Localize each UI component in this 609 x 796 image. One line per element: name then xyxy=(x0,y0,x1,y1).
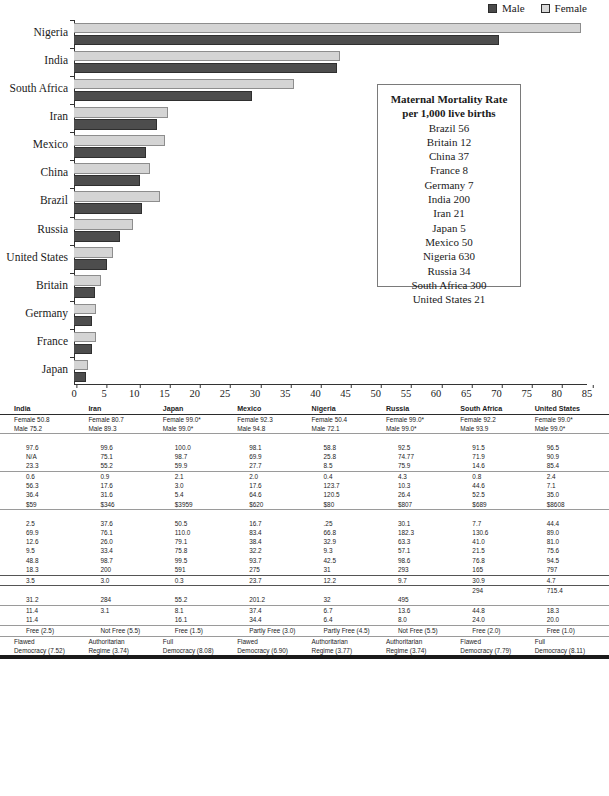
x-tick-mark xyxy=(381,385,382,388)
table-cell-iran: Not Free (5.5) xyxy=(88,626,162,636)
table-cell-russia: 8.0 xyxy=(386,615,460,624)
section-rule xyxy=(0,655,609,657)
table-cell-united-states: 7.1 xyxy=(535,481,609,490)
table-cell-south-africa: 21.5 xyxy=(460,546,534,555)
table-cell-japan: 0.3 xyxy=(163,575,237,585)
maternal-mortality-row: Germany 7 xyxy=(378,178,520,192)
table-cell-india: 48.8 xyxy=(14,556,88,565)
table-cell-south-africa: Flawed Democracy (7.79) xyxy=(460,636,534,655)
table-cell-india: 23.3 xyxy=(14,461,88,470)
table-cell-mexico: Flawed Democracy (6.90) xyxy=(237,636,311,655)
table-cell-united-states: 44.4 xyxy=(535,519,609,528)
table-row: 12.626.079.138.432.963.341.081.0 xyxy=(0,537,609,546)
y-axis-tick xyxy=(70,329,74,330)
y-axis-label-russia: Russia xyxy=(37,224,68,236)
maternal-mortality-row: India 200 xyxy=(378,192,520,206)
table-cell-mexico: 27.7 xyxy=(237,461,311,470)
bar-male-britain xyxy=(74,287,95,298)
table-cell-mexico: 93.7 xyxy=(237,556,311,565)
table-cell-iran: 37.6 xyxy=(88,519,162,528)
table-cell-south-africa: 14.6 xyxy=(460,461,534,470)
bar-male-germany xyxy=(74,316,92,327)
y-axis-label-japan: Japan xyxy=(42,364,68,376)
table-cell-iran: 3.0 xyxy=(88,575,162,585)
x-tick-70: 70 xyxy=(491,388,502,399)
table-cell-india: 56.3 xyxy=(14,481,88,490)
table-cell-south-africa: 41.0 xyxy=(460,537,534,546)
y-axis-label-china: China xyxy=(41,167,68,179)
bar-female-mexico xyxy=(74,135,165,146)
bar-group: Japan xyxy=(74,357,587,385)
table-cell-south-africa: 0.8 xyxy=(460,472,534,482)
maternal-mortality-row: Iran 21 xyxy=(378,206,520,220)
table-cell-south-africa: 30.9 xyxy=(460,575,534,585)
table-row: 0.60.92.12.00.44.30.82.4 xyxy=(0,472,609,482)
table-cell-nigeria: 25.8 xyxy=(312,452,386,461)
x-tick-mark xyxy=(502,385,503,388)
y-axis-label-united-states: United States xyxy=(6,252,68,264)
table-cell-iran: 31.6 xyxy=(88,490,162,499)
column-header-japan: Japan xyxy=(163,405,237,413)
row-label-cell xyxy=(0,443,14,452)
table-cell-india: 11.4 xyxy=(14,615,88,624)
table-corner-cell xyxy=(0,405,14,413)
row-label-cell xyxy=(0,452,14,461)
x-tick-25: 25 xyxy=(220,388,231,399)
y-axis-tick xyxy=(70,20,74,21)
table-cell-nigeria: 8.5 xyxy=(312,461,386,470)
table-cell-nigeria: .25 xyxy=(312,519,386,528)
table-row: 3.53.00.323.712.29.730.94.7 xyxy=(0,575,609,585)
legend-item-female: Female xyxy=(541,2,587,14)
table-head: IndiaIranJapanMexicoNigeriaRussiaSouth A… xyxy=(0,405,609,413)
table-cell-russia: 9.7 xyxy=(386,575,460,585)
table-row: 56.317.63.017.6123.710.344.67.1 xyxy=(0,481,609,490)
row-label-cell xyxy=(0,565,14,574)
table-cell-russia: 63.3 xyxy=(386,537,460,546)
table-row: 2.537.650.516.7.2530.17.744.4 xyxy=(0,519,609,528)
column-header-russia: Russia xyxy=(386,405,460,413)
table-cell-iran: 26.0 xyxy=(88,537,162,546)
bar-male-china xyxy=(74,175,140,186)
table-cell-india: 18.3 xyxy=(14,565,88,574)
row-label-cell xyxy=(0,490,14,499)
table-cell-iran: 75.1 xyxy=(88,452,162,461)
row-label-cell xyxy=(0,519,14,528)
table-cell-nigeria: $80 xyxy=(312,500,386,509)
row-label-cell xyxy=(0,626,14,636)
table-cell-japan: 100.0 xyxy=(163,443,237,452)
x-tick-5: 5 xyxy=(102,388,107,399)
table-cell-united-states: Female 99.0* Male 99.0* xyxy=(535,414,609,433)
bar-female-nigeria xyxy=(74,23,581,34)
table-cell-iran: 76.1 xyxy=(88,528,162,537)
bar-male-russia xyxy=(74,231,120,242)
table-cell-united-states xyxy=(535,595,609,604)
table-cell-south-africa: 7.7 xyxy=(460,519,534,528)
table-cell-russia: 10.3 xyxy=(386,481,460,490)
table-cell-mexico: 64.6 xyxy=(237,490,311,499)
table-cell-iran: $346 xyxy=(88,500,162,509)
table-cell-united-states: Free (1.0) xyxy=(535,626,609,636)
table-cell-japan: 59.9 xyxy=(163,461,237,470)
table-row: 69.976.1110.083.466.8182.3130.689.0 xyxy=(0,528,609,537)
table-cell-japan: 16.1 xyxy=(163,615,237,624)
legend-label-male: Male xyxy=(502,2,525,14)
bar-female-japan xyxy=(74,360,88,371)
table-cell-nigeria xyxy=(312,586,386,596)
table-cell-russia: 26.4 xyxy=(386,490,460,499)
table-cell-south-africa: 76.8 xyxy=(460,556,534,565)
table-cell-united-states: $8608 xyxy=(535,500,609,509)
table-cell-united-states: 89.0 xyxy=(535,528,609,537)
maternal-mortality-row: France 8 xyxy=(378,163,520,177)
row-label-cell xyxy=(0,556,14,565)
bar-female-britain xyxy=(74,275,101,286)
bar-female-russia xyxy=(74,219,133,230)
table-cell-japan: $3959 xyxy=(163,500,237,509)
bar-male-india xyxy=(74,63,337,74)
x-tick-10: 10 xyxy=(129,388,140,399)
row-label-cell xyxy=(0,546,14,555)
table-cell-japan xyxy=(163,586,237,596)
table-row: $59$346$3959$620$80$807$689$8608 xyxy=(0,500,609,509)
table-cell-south-africa: Female 92.2 Male 93.9 xyxy=(460,414,534,433)
row-label-cell xyxy=(0,500,14,509)
x-tick-65: 65 xyxy=(461,388,472,399)
